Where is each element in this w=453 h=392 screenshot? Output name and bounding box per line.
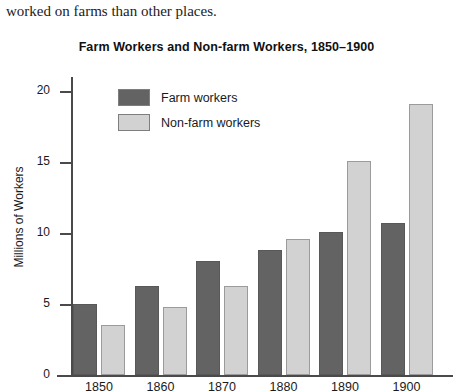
y-tick-mark xyxy=(60,91,71,93)
chart-title: Farm Workers and Non-farm Workers, 1850–… xyxy=(0,40,453,54)
body-paragraph: worked on farms than other places. xyxy=(6,2,446,20)
y-tick-label: 5 xyxy=(10,296,50,310)
bar-1870-farm xyxy=(196,261,220,375)
x-tick-label-1880: 1880 xyxy=(249,380,319,392)
x-tick-label-1900: 1900 xyxy=(372,380,442,392)
y-tick-mark xyxy=(60,375,71,377)
bar-1900-farm xyxy=(381,223,405,375)
x-axis-line xyxy=(57,375,453,377)
x-tick-label-1850: 1850 xyxy=(64,380,134,392)
y-tick-label: 20 xyxy=(10,83,50,97)
bar-1860-farm xyxy=(135,286,159,375)
bar-1890-non-farm xyxy=(347,161,371,375)
y-tick-mark xyxy=(60,304,71,306)
y-tick-label: 15 xyxy=(10,154,50,168)
x-tick-label-1870: 1870 xyxy=(187,380,257,392)
y-tick-mark xyxy=(60,233,71,235)
y-tick-mark xyxy=(60,162,71,164)
bar-1880-farm xyxy=(258,250,282,375)
x-tick-label-1860: 1860 xyxy=(126,380,196,392)
x-tick-label-1890: 1890 xyxy=(310,380,380,392)
bar-1890-farm xyxy=(319,232,343,375)
bar-1880-non-farm xyxy=(286,239,310,375)
chart-figure: Farm Workers and Non-farm Workers, 1850–… xyxy=(0,30,453,392)
bar-1860-non-farm xyxy=(163,307,187,375)
bar-1850-non-farm xyxy=(101,325,125,375)
y-tick-label: 0 xyxy=(10,367,50,381)
plot-area xyxy=(73,77,445,375)
bar-1870-non-farm xyxy=(224,286,248,375)
bar-1900-non-farm xyxy=(409,104,433,375)
bar-1850-farm xyxy=(73,304,97,375)
y-tick-label: 10 xyxy=(10,225,50,239)
